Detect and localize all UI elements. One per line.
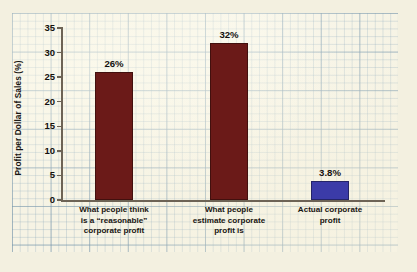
bar: 3.8% bbox=[311, 181, 349, 200]
category-label-line: What people think bbox=[55, 205, 173, 216]
y-axis-tick-mark bbox=[57, 199, 61, 200]
category-label: What people thinkis a “reasonable”corpor… bbox=[55, 205, 173, 237]
category-label-line: Actual corporate bbox=[274, 205, 386, 216]
category-label-line: is a “reasonable” bbox=[55, 216, 173, 227]
category-label-line: What people bbox=[170, 205, 288, 216]
y-axis-tick-mark bbox=[57, 175, 61, 176]
bar-fill bbox=[95, 72, 133, 200]
category-label: What peopleestimate corporateprofit is bbox=[170, 205, 288, 237]
y-axis-tick-mark bbox=[57, 126, 61, 127]
chart-figure: Profit per Dollar of Sales (%) 051015202… bbox=[0, 0, 417, 272]
y-axis-line bbox=[61, 27, 63, 201]
category-label-line: profit bbox=[274, 216, 386, 227]
y-axis-tick-mark bbox=[57, 101, 61, 102]
y-axis-tick-label: 5 bbox=[29, 169, 55, 180]
bar: 32% bbox=[210, 43, 248, 200]
bar-value-label: 32% bbox=[219, 29, 238, 40]
y-axis-tick-label: 25 bbox=[29, 71, 55, 82]
y-axis-tick-label: 30 bbox=[29, 47, 55, 58]
category-label-line: estimate corporate bbox=[170, 216, 288, 227]
y-axis-tick-label: 0 bbox=[29, 194, 55, 205]
y-axis-tick-label: 15 bbox=[29, 120, 55, 131]
y-axis-tick-label: 10 bbox=[29, 145, 55, 156]
category-label-line: profit is bbox=[170, 226, 288, 237]
bar-fill bbox=[210, 43, 248, 200]
bar-value-label: 26% bbox=[104, 58, 123, 69]
x-axis-line bbox=[61, 200, 385, 202]
y-axis-tick-mark bbox=[57, 52, 61, 53]
y-axis-title: Profit per Dollar of Sales (%) bbox=[13, 38, 23, 198]
y-axis-tick-mark bbox=[57, 27, 61, 28]
y-axis-tick-mark bbox=[57, 76, 61, 77]
bar: 26% bbox=[95, 72, 133, 200]
bar-fill bbox=[311, 181, 349, 200]
bar-value-label: 3.8% bbox=[319, 167, 341, 178]
y-axis-tick-label: 20 bbox=[29, 96, 55, 107]
y-axis-tick-label: 35 bbox=[29, 22, 55, 33]
y-axis-tick-mark bbox=[57, 150, 61, 151]
category-label-line: corporate profit bbox=[55, 226, 173, 237]
plot-area: Profit per Dollar of Sales (%) 051015202… bbox=[0, 0, 417, 272]
category-label: Actual corporateprofit bbox=[274, 205, 386, 226]
